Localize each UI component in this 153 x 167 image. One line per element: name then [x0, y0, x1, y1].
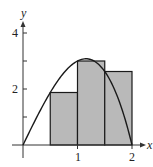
y-tick-label-4: 4 [12, 26, 18, 40]
x-axis-label: x [146, 138, 153, 152]
y-axis-arrow-icon [21, 21, 26, 27]
x-axis-arrow-icon [140, 143, 146, 148]
x-tick-label-1: 1 [75, 150, 81, 164]
x-tick-label-2: 2 [129, 150, 135, 164]
y-tick-label-2: 2 [12, 82, 18, 96]
rectangle-3 [105, 72, 132, 146]
rectangle-2 [78, 61, 105, 145]
riemann-sum-chart: 1 2 2 4 x y [0, 0, 153, 167]
rectangle-1 [50, 93, 77, 146]
y-axis-label: y [20, 6, 27, 20]
